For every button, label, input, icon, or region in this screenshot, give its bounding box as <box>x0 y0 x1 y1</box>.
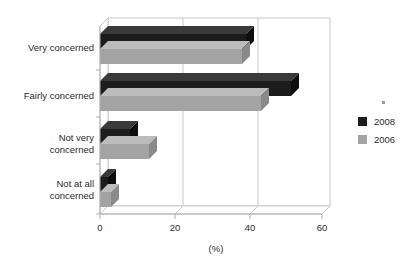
legend-swatch-2006 <box>358 135 367 144</box>
legend-item-2006[interactable]: 2006 <box>358 130 416 148</box>
legend: 2008 2006 <box>358 112 416 148</box>
legend-label-2006: 2006 <box>374 134 395 145</box>
bar-2006-very-concerned <box>100 41 250 64</box>
plot-area <box>0 0 418 264</box>
legend-label-2008: 2008 <box>374 116 395 127</box>
legend-tick-mark <box>382 101 385 104</box>
x-tick-label-20: 20 <box>160 222 190 233</box>
legend-swatch-2008 <box>358 117 367 126</box>
x-tick-label-40: 40 <box>235 222 265 233</box>
bar-2006-not-very-concerned <box>100 136 157 159</box>
x-tick-label-60: 60 <box>307 222 337 233</box>
x-axis-title: (%) <box>186 243 246 254</box>
floor-plane <box>100 206 330 214</box>
bar-chart: Very concerned Fairly concerned Not very… <box>0 0 418 264</box>
legend-item-2008[interactable]: 2008 <box>358 112 416 130</box>
bar-2006-fairly-concerned <box>100 88 269 111</box>
x-tick-label-0: 0 <box>85 222 115 233</box>
